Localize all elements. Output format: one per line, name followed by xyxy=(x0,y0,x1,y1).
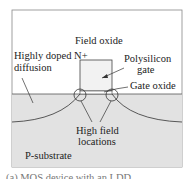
label-field-oxide: Field oxide xyxy=(75,35,123,46)
label-n-plus-line1: Highly doped N+ xyxy=(14,50,88,61)
label-polysilicon-line2: gate xyxy=(137,64,155,75)
label-gate-oxide: Gate oxide xyxy=(130,80,176,91)
label-n-plus-line2: diffusion xyxy=(14,62,52,73)
label-p-substrate: P-substrate xyxy=(25,150,72,161)
label-high-field-line2: locations xyxy=(78,136,116,147)
label-high-field-line1: High field xyxy=(76,125,119,136)
label-polysilicon-line1: Polysilicon xyxy=(124,53,171,64)
caption-partial: (a) MOS device with an LDD... xyxy=(6,172,139,179)
